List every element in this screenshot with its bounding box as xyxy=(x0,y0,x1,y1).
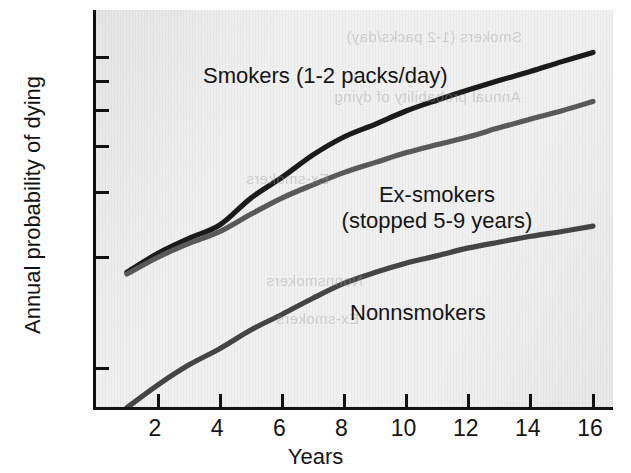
x-tick-mark xyxy=(529,394,532,407)
x-tick-label: 4 xyxy=(197,415,237,442)
x-tick-mark xyxy=(343,394,346,407)
x-tick-label: 2 xyxy=(135,415,175,442)
series-label-exsmokers-line2: (stopped 5-9 years) xyxy=(312,208,562,234)
x-tick-mark xyxy=(467,394,470,407)
y-tick-mark xyxy=(96,56,109,59)
x-tick-mark xyxy=(592,394,595,407)
x-tick-mark xyxy=(157,394,160,407)
y-tick-mark xyxy=(96,256,109,259)
y-tick-mark xyxy=(96,80,109,83)
y-tick-mark xyxy=(96,109,109,112)
plot-area: Smokers (1-2 packs/day) Annual probabili… xyxy=(93,10,613,410)
chart-figure: Smokers (1-2 packs/day) Annual probabili… xyxy=(0,0,631,473)
x-tick-label: 14 xyxy=(508,415,548,442)
x-axis-title: Years xyxy=(0,444,631,470)
x-tick-label: 12 xyxy=(446,415,486,442)
x-tick-label: 8 xyxy=(321,415,361,442)
x-tick-label: 16 xyxy=(570,415,610,442)
y-tick-mark xyxy=(96,191,109,194)
x-tick-label: 10 xyxy=(384,415,424,442)
y-axis-title: Annual probability of dying xyxy=(20,40,46,370)
series-label-exsmokers: Ex-smokers (stopped 5-9 years) xyxy=(312,182,562,233)
x-tick-mark xyxy=(405,394,408,407)
y-tick-mark xyxy=(96,367,109,370)
series-label-exsmokers-line1: Ex-smokers xyxy=(312,182,562,208)
series-label-smokers: Smokers (1-2 packs/day) xyxy=(203,63,448,89)
x-tick-mark xyxy=(219,394,222,407)
x-tick-mark xyxy=(281,394,284,407)
y-tick-mark xyxy=(96,145,109,148)
x-tick-label: 6 xyxy=(259,415,299,442)
series-label-nonsmokers: Nonnsmokers xyxy=(350,300,486,326)
